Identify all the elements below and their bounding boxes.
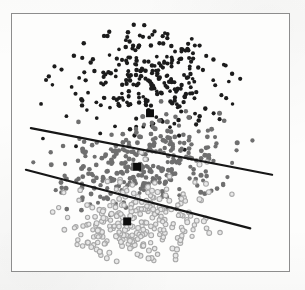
data-point	[187, 176, 191, 180]
data-point	[177, 187, 181, 191]
data-point	[173, 253, 178, 258]
data-point	[140, 66, 144, 70]
data-point	[186, 115, 191, 120]
data-point	[59, 180, 64, 185]
data-point	[126, 73, 130, 77]
data-point	[79, 208, 84, 213]
data-point	[76, 158, 81, 163]
data-point	[119, 212, 124, 217]
data-point	[152, 227, 156, 231]
data-point	[125, 35, 129, 39]
data-point	[80, 56, 84, 60]
data-point	[47, 74, 51, 78]
data-point	[160, 167, 165, 172]
data-point	[165, 36, 169, 40]
data-point	[250, 138, 254, 142]
data-point	[75, 242, 79, 246]
data-point	[204, 153, 208, 157]
data-point	[134, 68, 139, 73]
data-point	[173, 98, 177, 102]
data-point	[132, 23, 136, 27]
data-point	[120, 140, 125, 145]
data-point	[163, 146, 167, 150]
data-point	[222, 63, 226, 67]
data-point	[149, 43, 153, 47]
data-point	[161, 138, 166, 143]
data-point	[145, 204, 150, 209]
data-point	[142, 23, 146, 27]
data-point	[117, 224, 122, 229]
data-point	[112, 154, 117, 159]
data-point	[108, 228, 112, 232]
data-point	[134, 117, 138, 121]
data-point	[146, 60, 150, 64]
data-point	[104, 256, 109, 261]
data-point	[57, 205, 61, 209]
data-point	[135, 140, 140, 145]
data-point	[103, 152, 108, 157]
data-point	[162, 228, 166, 232]
data-point	[39, 102, 43, 106]
data-point	[108, 53, 112, 57]
data-point	[180, 234, 184, 238]
data-point	[108, 218, 112, 222]
data-point	[99, 103, 103, 107]
data-point	[134, 130, 139, 135]
data-point	[120, 132, 125, 137]
data-point	[151, 143, 156, 148]
data-point	[169, 148, 173, 152]
data-point	[188, 165, 192, 169]
data-point	[76, 177, 80, 181]
data-point	[72, 226, 76, 230]
data-point	[101, 176, 106, 181]
data-point	[127, 89, 132, 94]
data-point	[188, 92, 192, 96]
data-point	[102, 196, 106, 200]
data-point	[205, 134, 210, 139]
data-point	[128, 127, 133, 132]
data-point	[176, 213, 180, 217]
data-point	[235, 140, 240, 145]
data-point	[157, 41, 161, 45]
data-point	[231, 102, 235, 106]
data-point	[204, 174, 209, 179]
data-point	[144, 220, 149, 225]
data-point	[112, 224, 116, 228]
data-point	[139, 234, 143, 238]
data-point	[126, 30, 131, 35]
data-point	[135, 252, 140, 257]
data-point	[113, 205, 118, 210]
data-point	[112, 96, 116, 100]
data-point	[151, 164, 156, 169]
data-point	[153, 136, 157, 140]
data-point	[177, 124, 181, 128]
data-point	[133, 48, 137, 52]
data-point	[165, 61, 169, 65]
data-point	[187, 138, 192, 143]
data-point	[137, 95, 141, 99]
data-point	[193, 112, 197, 116]
data-point	[178, 141, 182, 145]
data-point	[167, 198, 172, 203]
data-point	[119, 240, 124, 245]
data-point	[218, 230, 222, 234]
data-point	[230, 161, 234, 165]
data-point	[165, 74, 169, 78]
data-point	[175, 88, 179, 92]
data-point	[179, 49, 183, 53]
data-point	[147, 36, 151, 40]
data-point	[152, 246, 157, 251]
data-point	[59, 186, 63, 190]
data-point	[181, 100, 185, 104]
boundary-lower	[26, 170, 250, 229]
data-point	[218, 117, 222, 121]
data-point	[90, 205, 95, 210]
data-point	[128, 102, 132, 106]
data-point	[87, 167, 92, 172]
data-point	[166, 168, 171, 173]
data-point	[94, 163, 99, 168]
data-point	[133, 200, 138, 205]
data-point	[193, 43, 197, 47]
data-point	[54, 188, 58, 192]
data-point	[98, 131, 102, 135]
